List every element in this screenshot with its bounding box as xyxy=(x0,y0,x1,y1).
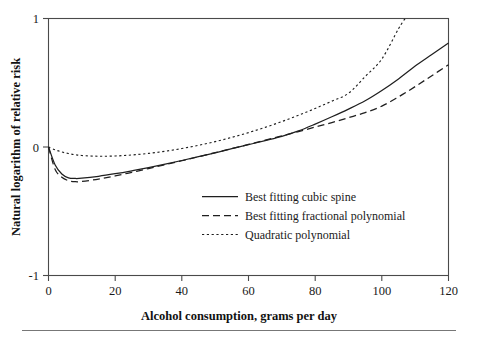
x-tick-label-40: 40 xyxy=(176,284,189,298)
legend-label-cubic-spine: Best fitting cubic spine xyxy=(245,190,356,204)
chart-figure: 1 0 -1 0 20 40 60 80 100 120 Alcohol con… xyxy=(0,0,478,342)
x-tick-label-60: 60 xyxy=(242,284,255,298)
x-tick-label-100: 100 xyxy=(372,284,391,298)
chart-background xyxy=(0,0,478,342)
y-axis-title: Natural logarithm of relative risk xyxy=(9,58,23,236)
chart-svg: 1 0 -1 0 20 40 60 80 100 120 Alcohol con… xyxy=(0,0,478,342)
y-tick-label-neg1: -1 xyxy=(29,269,39,283)
x-tick-label-0: 0 xyxy=(45,284,51,298)
x-tick-label-80: 80 xyxy=(309,284,322,298)
x-tick-label-20: 20 xyxy=(109,284,122,298)
y-tick-label-0: 0 xyxy=(33,141,39,155)
x-tick-label-120: 120 xyxy=(439,284,458,298)
legend-label-fractional-polynomial: Best fitting fractional polynomial xyxy=(245,209,406,223)
y-tick-label-1: 1 xyxy=(33,12,39,26)
legend-label-quadratic-polynomial: Quadratic polynomial xyxy=(245,228,351,242)
x-axis-title: Alcohol consumption, grams per day xyxy=(141,309,338,323)
